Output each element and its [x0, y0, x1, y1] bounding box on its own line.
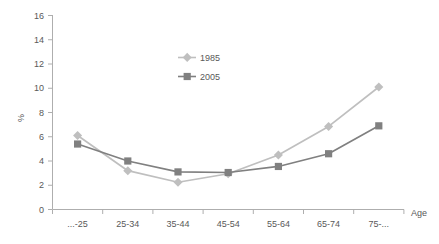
- y-tick-label-2: 2: [39, 180, 44, 190]
- x-tick-label-3: 45-54: [217, 219, 240, 229]
- legend-marker-square-icon: [184, 73, 191, 80]
- data-point-2005-55-64[interactable]: [275, 163, 282, 170]
- x-tick-label-2: 35-44: [166, 219, 189, 229]
- y-axis-title: %: [16, 114, 26, 122]
- data-point-2005-75-...[interactable]: [375, 122, 382, 129]
- y-tick-label-16: 16: [34, 11, 44, 21]
- x-tick-label-5: 65-74: [317, 219, 340, 229]
- chart-canvas: 0 2 4 6 8 10 12 14 16 % ...-25 25-34: [0, 0, 439, 244]
- chart-background: [0, 0, 439, 244]
- x-axis-title: Age: [411, 208, 427, 218]
- y-tick-label-4: 4: [39, 156, 44, 166]
- y-tick-label-8: 8: [39, 108, 44, 118]
- x-tick-label-6: 75-...: [369, 219, 390, 229]
- x-tick-label-4: 55-64: [267, 219, 290, 229]
- x-tick-label-0: ...-25: [67, 219, 88, 229]
- y-tick-label-12: 12: [34, 59, 44, 69]
- data-point-2005-35-44[interactable]: [174, 168, 181, 175]
- data-point-2005-45-54[interactable]: [225, 169, 232, 176]
- y-tick-label-10: 10: [34, 83, 44, 93]
- x-tick-label-1: 25-34: [116, 219, 139, 229]
- line-chart: 0 2 4 6 8 10 12 14 16 % ...-25 25-34: [0, 0, 439, 244]
- data-point-2005-...-25[interactable]: [74, 140, 81, 147]
- data-point-2005-25-34[interactable]: [124, 157, 131, 164]
- y-tick-label-14: 14: [34, 35, 44, 45]
- y-tick-label-0: 0: [39, 205, 44, 215]
- legend-label-2005: 2005: [200, 72, 220, 82]
- legend-label-1985: 1985: [200, 53, 220, 63]
- y-tick-label-6: 6: [39, 132, 44, 142]
- data-point-2005-65-74[interactable]: [325, 150, 332, 157]
